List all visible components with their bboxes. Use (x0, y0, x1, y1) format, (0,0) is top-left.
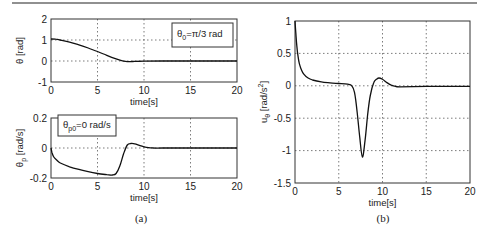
y-tick-label: 0 (285, 80, 291, 91)
theta-plot: 05101520-1012time[s]θ [rad]θ0=π/3 rad (14, 14, 243, 108)
x-tick-label: 0 (292, 186, 298, 197)
x-axis-label: time[s] (130, 192, 158, 203)
y-tick-label: -0.5 (274, 113, 292, 124)
figure: 05101520-1012time[s]θ [rad]θ0=π/3 rad 05… (0, 0, 490, 240)
x-tick-label: 20 (231, 181, 243, 192)
y-axis-label: θ [rad] (14, 37, 25, 64)
x-tick-label: 15 (185, 181, 197, 192)
y-tick-label: -1 (38, 77, 47, 88)
theta-p-plot: 05101520-0.200.2time[s]θp [rad/s]θp0=0 r… (14, 113, 243, 204)
x-axis-label: time[s] (130, 96, 158, 107)
y-tick-label: 0.2 (33, 113, 47, 124)
x-tick-label: 20 (464, 186, 476, 197)
y-tick-label: 0 (41, 56, 47, 67)
caption-a: (a) (135, 212, 148, 225)
x-tick-label: 0 (48, 181, 54, 192)
x-tick-label: 20 (231, 85, 243, 96)
y-tick-label: 0.5 (277, 48, 291, 59)
y-axis-label: θp [rad/s] (14, 129, 28, 167)
x-tick-label: 15 (185, 85, 197, 96)
y-tick-label: -1 (282, 145, 291, 156)
x-tick-label: 5 (336, 186, 342, 197)
x-tick-label: 10 (377, 186, 389, 197)
x-tick-label: 10 (138, 85, 150, 96)
x-tick-label: 10 (138, 181, 150, 192)
y-tick-label: -1.5 (274, 178, 292, 189)
y-axis-label: uθ [rad/s2] (257, 81, 271, 123)
y-tick-label: 1 (41, 35, 47, 46)
y-tick-label: 1 (285, 16, 291, 27)
x-tick-label: 0 (48, 85, 54, 96)
y-tick-label: 2 (41, 14, 47, 25)
x-axis-label: time[s] (369, 197, 397, 208)
x-tick-label: 5 (95, 85, 101, 96)
caption-b: (b) (377, 212, 390, 225)
x-tick-label: 15 (421, 186, 433, 197)
x-tick-label: 5 (95, 181, 101, 192)
u-theta-plot: 05101520-1.5-1-0.500.51time[s]uθ [rad/s2… (257, 16, 476, 209)
y-tick-label: -0.2 (30, 173, 48, 184)
y-tick-label: 0 (41, 143, 47, 154)
